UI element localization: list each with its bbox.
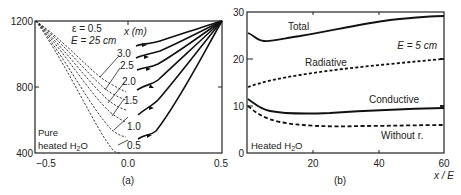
series-label-2.0: 2.0 [122, 76, 136, 87]
panel-b-label: (b) [334, 175, 346, 186]
solid-curves [136, 21, 222, 139]
xm-annotation: x (m) [123, 26, 147, 37]
panel-a-label: (a) [122, 175, 134, 186]
arrowheads [142, 43, 154, 138]
y-tick-label: 20 [233, 54, 245, 65]
x-tick-label: 60 [438, 158, 450, 169]
pure-label: Pure [38, 127, 58, 138]
heated-label: heated H2O [38, 140, 88, 152]
y-tick-label: 800 [16, 82, 33, 93]
e-annotation: E = 5 cm [397, 40, 437, 51]
panel-b: 30 20 10 0 20 40 60 x / E (b) E = 5 cm T… [233, 7, 454, 186]
x-tick-label: 0.0 [121, 158, 135, 169]
heated-label: Heated H2O [251, 140, 302, 152]
y-tick-label: 400 [16, 148, 33, 159]
e-annotation: E = 25 cm [71, 35, 116, 46]
series-label-2.5: 2.5 [120, 60, 134, 71]
y-tick-label: 0 [238, 148, 244, 159]
x-tick-label: 0.5 [214, 158, 228, 169]
x-axis-label: x / E [433, 170, 454, 181]
x-tick-label: −0.5 [36, 158, 56, 169]
series-label-3.0: 3.0 [117, 48, 131, 59]
panel-a: 1200 800 400 −0.5 0.0 0.5 (a) ε = 0.5 E … [11, 16, 229, 186]
series-label-1.5: 1.5 [124, 95, 138, 106]
series-label-1.0: 1.0 [127, 121, 141, 132]
x-tick-label: 40 [373, 158, 385, 169]
conductive-label: Conductive [369, 94, 419, 105]
y-tick-label: 1200 [11, 16, 34, 27]
x-tick-label: 20 [307, 158, 319, 169]
total-curve [248, 16, 444, 41]
epsilon-annotation: ε = 0.5 [72, 23, 102, 34]
total-label: Total [288, 21, 309, 32]
y-tick-label: 10 [233, 101, 245, 112]
series-label-0.5: 0.5 [127, 140, 141, 151]
without-label: Without r. [381, 130, 423, 141]
figure: 1200 800 400 −0.5 0.0 0.5 (a) ε = 0.5 E … [0, 0, 461, 195]
y-tick-label: 30 [233, 7, 245, 18]
radiative-label: Radiative [305, 57, 347, 68]
